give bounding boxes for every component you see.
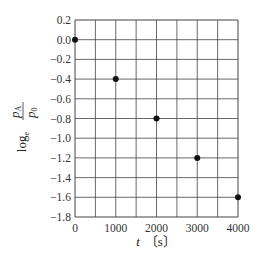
x-tick-label: 1000 <box>104 222 127 234</box>
svg-text:pA: pA <box>7 106 23 120</box>
y-tick-label: 0.2 <box>57 14 72 26</box>
y-axis-label: loge pA p0 <box>7 102 39 152</box>
data-point <box>72 37 78 43</box>
svg-text:loge: loge <box>14 132 31 153</box>
data-point <box>154 116 160 122</box>
y-tick-label: −1.8 <box>50 211 71 223</box>
data-point <box>113 76 119 82</box>
x-tick-labels: 01000200030004000 <box>72 222 250 234</box>
y-tick-label: −1.0 <box>50 132 71 144</box>
x-tick-label: 3000 <box>186 222 209 234</box>
data-point <box>235 194 241 200</box>
x-tick-label: 2000 <box>145 222 168 234</box>
svg-text:p0: p0 <box>23 108 39 120</box>
y-tick-label: −1.4 <box>50 172 71 184</box>
y-tick-labels: 0.20.0−0.2−0.4−0.6−0.8−1.0−1.2−1.4−1.6−1… <box>50 14 71 223</box>
y-tick-label: −1.2 <box>50 152 71 164</box>
y-tick-label: −0.2 <box>50 53 71 65</box>
x-tick-label: 0 <box>72 222 78 234</box>
x-tick-label: 4000 <box>227 222 250 234</box>
y-tick-label: −1.6 <box>50 191 71 203</box>
data-point <box>194 155 200 161</box>
y-tick-label: −0.8 <box>50 113 71 125</box>
y-tick-label: −0.4 <box>50 73 71 85</box>
x-axis-label: t〔s〕 <box>136 234 176 249</box>
y-tick-label: 0.0 <box>57 34 72 46</box>
chart: 0.20.0−0.2−0.4−0.6−0.8−1.0−1.2−1.4−1.6−1… <box>0 0 264 262</box>
y-tick-label: −0.6 <box>50 93 71 105</box>
